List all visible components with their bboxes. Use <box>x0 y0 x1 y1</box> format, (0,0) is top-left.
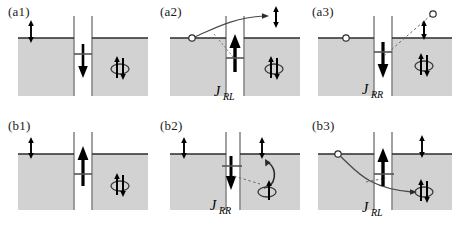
left-well-fill <box>18 154 74 210</box>
center-arrow-down <box>374 42 392 78</box>
panel-b3-graphic: J RL <box>304 114 456 228</box>
tunneling-curve-head <box>262 13 269 19</box>
right-well-fill <box>92 38 148 96</box>
center-arrow-up <box>226 34 244 72</box>
panel-a3: (a3) <box>304 0 456 114</box>
panel-b2: (b2) <box>152 114 304 228</box>
hole-circle <box>189 35 195 41</box>
panel-a3-graphic: J RR <box>304 0 456 114</box>
current-label-symbol: J <box>210 198 217 213</box>
figure-container: (a1) <box>0 0 457 228</box>
panel-a2: (a2) <box>152 0 304 114</box>
current-label-subscript: RL <box>370 207 383 218</box>
panel-b1: (b1) <box>0 114 152 228</box>
escaped-hole-circle <box>430 11 436 17</box>
center-arrow-up <box>74 146 92 186</box>
hole-circle <box>343 35 349 41</box>
panel-b2-graphic: J RR <box>152 114 304 228</box>
panel-b3: (b3) <box>304 114 456 228</box>
tunneling-curve <box>192 16 264 38</box>
current-label-symbol: J <box>362 82 369 97</box>
current-label-subscript: RR <box>370 89 383 100</box>
right-well-fill <box>92 154 148 210</box>
left-well-fill <box>18 38 74 96</box>
current-label-subscript: RR <box>218 205 231 216</box>
left-well-fill <box>170 154 226 210</box>
panel-a1-graphic <box>0 0 152 114</box>
center-arrow-down <box>74 44 92 78</box>
panel-b1-graphic <box>0 114 152 228</box>
panel-a1: (a1) <box>0 0 152 114</box>
current-label-symbol: J <box>214 84 221 99</box>
panel-a2-graphic: J RL <box>152 0 304 114</box>
escaped-spin-pair <box>273 6 279 28</box>
current-label-subscript: RL <box>222 91 235 102</box>
current-label-symbol: J <box>362 200 369 215</box>
